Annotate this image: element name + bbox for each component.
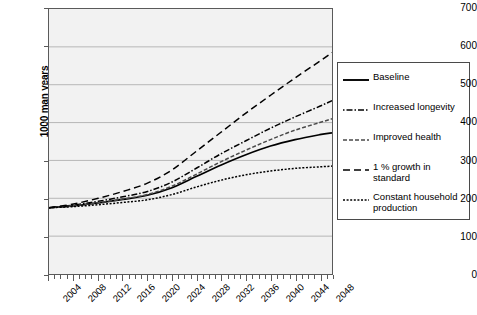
x-tick-mark bbox=[197, 275, 198, 281]
legend-label: Increased longevity bbox=[373, 101, 455, 112]
x-tick-mark bbox=[228, 275, 229, 279]
x-tick-mark bbox=[129, 275, 130, 279]
legend-item[interactable]: Baseline bbox=[343, 71, 409, 84]
x-tick-mark bbox=[122, 275, 123, 281]
x-tick-mark bbox=[277, 275, 278, 279]
x-tick-mark bbox=[91, 275, 92, 279]
y-tick-label: 100 bbox=[443, 232, 477, 242]
x-tick-mark bbox=[327, 275, 328, 279]
x-tick-label: 2020 bbox=[160, 282, 182, 304]
x-tick-mark bbox=[85, 275, 86, 279]
x-tick-mark bbox=[308, 275, 309, 279]
x-tick-label: 2032 bbox=[235, 282, 257, 304]
x-tick-mark bbox=[246, 275, 247, 281]
legend-label: Improved health bbox=[373, 131, 441, 142]
series-line bbox=[49, 166, 332, 208]
x-tick-mark bbox=[147, 275, 148, 281]
legend-swatch-icon bbox=[343, 162, 369, 174]
y-tick-mark bbox=[44, 161, 48, 162]
x-tick-mark bbox=[234, 275, 235, 279]
x-tick-mark bbox=[54, 275, 55, 279]
plot-area bbox=[48, 8, 333, 275]
x-tick-mark bbox=[135, 275, 136, 279]
series-line bbox=[49, 133, 332, 208]
x-tick-mark bbox=[67, 275, 68, 279]
y-tick-mark bbox=[44, 199, 48, 200]
y-tick-label: 700 bbox=[443, 3, 477, 13]
legend-label: Baseline bbox=[373, 71, 409, 82]
x-tick-label: 2004 bbox=[61, 282, 83, 304]
y-tick-label: 600 bbox=[443, 41, 477, 51]
x-tick-mark bbox=[73, 275, 74, 281]
x-tick-mark bbox=[271, 275, 272, 281]
x-tick-mark bbox=[141, 275, 142, 279]
x-tick-mark bbox=[252, 275, 253, 279]
y-tick-label: 200 bbox=[443, 194, 477, 204]
x-tick-mark bbox=[302, 275, 303, 279]
x-tick-mark bbox=[265, 275, 266, 279]
y-tick-mark bbox=[44, 275, 48, 276]
x-tick-mark bbox=[48, 275, 49, 281]
legend-swatch-icon bbox=[343, 192, 369, 204]
legend-item[interactable]: Increased longevity bbox=[343, 101, 455, 114]
x-tick-label: 2048 bbox=[334, 282, 356, 304]
x-tick-mark bbox=[166, 275, 167, 279]
y-tick-mark bbox=[44, 122, 48, 123]
x-tick-mark bbox=[240, 275, 241, 279]
y-tick-label: 0 bbox=[443, 270, 477, 280]
series-line bbox=[49, 119, 332, 208]
x-tick-mark bbox=[178, 275, 179, 279]
legend-swatch-icon bbox=[343, 132, 369, 144]
x-tick-mark bbox=[314, 275, 315, 279]
x-axis-ticks bbox=[48, 275, 333, 283]
x-tick-mark bbox=[79, 275, 80, 279]
x-tick-mark bbox=[191, 275, 192, 279]
series-line bbox=[49, 101, 332, 208]
y-tick-mark bbox=[44, 8, 48, 9]
x-tick-mark bbox=[221, 275, 222, 281]
x-tick-mark bbox=[184, 275, 185, 279]
legend-item[interactable]: Constant household production bbox=[343, 191, 458, 213]
x-tick-mark bbox=[283, 275, 284, 279]
x-tick-mark bbox=[153, 275, 154, 279]
legend-swatch-icon bbox=[343, 72, 369, 84]
x-tick-label: 2024 bbox=[185, 282, 207, 304]
x-tick-mark bbox=[290, 275, 291, 279]
y-tick-mark bbox=[44, 237, 48, 238]
y-tick-mark bbox=[44, 84, 48, 85]
y-tick-mark bbox=[44, 46, 48, 47]
x-tick-mark bbox=[110, 275, 111, 279]
x-tick-label: 2012 bbox=[111, 282, 133, 304]
chart-figure: 1000 man years 2004200820122016202020242… bbox=[0, 0, 477, 315]
series-lines bbox=[49, 9, 332, 274]
x-tick-label: 2044 bbox=[309, 282, 331, 304]
x-tick-mark bbox=[209, 275, 210, 279]
y-tick-label: 400 bbox=[443, 117, 477, 127]
y-tick-label: 300 bbox=[443, 156, 477, 166]
x-tick-mark bbox=[296, 275, 297, 281]
x-tick-label: 2036 bbox=[259, 282, 281, 304]
x-tick-mark bbox=[172, 275, 173, 281]
x-tick-label: 2040 bbox=[284, 282, 306, 304]
x-tick-mark bbox=[321, 275, 322, 281]
legend-item[interactable]: Improved health bbox=[343, 131, 441, 144]
legend-swatch-icon bbox=[343, 102, 369, 114]
x-tick-label: 2008 bbox=[86, 282, 108, 304]
x-tick-mark bbox=[203, 275, 204, 279]
x-tick-mark bbox=[104, 275, 105, 279]
x-tick-mark bbox=[215, 275, 216, 279]
x-tick-mark bbox=[116, 275, 117, 279]
x-tick-mark bbox=[333, 275, 334, 279]
x-tick-mark bbox=[259, 275, 260, 279]
y-tick-label: 500 bbox=[443, 79, 477, 89]
x-tick-mark bbox=[160, 275, 161, 279]
x-tick-label: 2028 bbox=[210, 282, 232, 304]
x-tick-mark bbox=[60, 275, 61, 279]
x-tick-label: 2016 bbox=[136, 282, 158, 304]
x-tick-mark bbox=[98, 275, 99, 281]
series-line bbox=[49, 53, 332, 208]
